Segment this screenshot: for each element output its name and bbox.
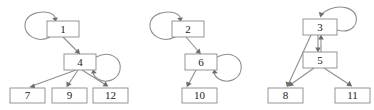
node-n4-label: 4 — [77, 56, 83, 68]
cluster-1: 1 4 7 9 12 — [10, 12, 128, 103]
node-n2-label: 2 — [185, 23, 191, 35]
node-n6[interactable]: 6 — [185, 54, 217, 70]
diagram-canvas: 1 4 7 9 12 — [0, 0, 374, 110]
node-n12-label: 12 — [105, 89, 116, 101]
node-n10[interactable]: 10 — [182, 88, 217, 103]
node-n9[interactable]: 9 — [52, 88, 87, 103]
graph-svg: 1 4 7 9 12 — [0, 0, 374, 110]
node-n1[interactable]: 1 — [47, 21, 79, 37]
arrowhead-n4-n9 — [66, 81, 71, 87]
node-n12[interactable]: 12 — [93, 88, 128, 103]
edge-n1-n4 — [63, 37, 78, 52]
node-n3[interactable]: 3 — [303, 19, 337, 35]
self-loop-edge-n6-n6 — [214, 54, 241, 81]
node-n9-label: 9 — [67, 89, 73, 101]
node-n6-label: 6 — [198, 56, 204, 68]
node-n10-label: 10 — [194, 89, 206, 101]
node-n7[interactable]: 7 — [10, 88, 45, 103]
node-n2[interactable]: 2 — [172, 21, 204, 37]
node-n4[interactable]: 4 — [64, 54, 96, 70]
node-n8[interactable]: 8 — [268, 88, 303, 103]
node-n1-label: 1 — [60, 23, 66, 35]
edge-n2-n6 — [186, 37, 199, 52]
node-n5-label: 5 — [317, 54, 323, 66]
cluster-2: 2 6 10 — [150, 12, 241, 103]
edge-n5-n8 — [290, 68, 314, 85]
self-loop-edge-n4-n4 — [93, 54, 120, 81]
node-n8-label: 8 — [283, 89, 289, 101]
edge-n5-n11 — [324, 68, 350, 85]
node-n11[interactable]: 11 — [335, 88, 370, 103]
cluster-3: 3 5 8 11 — [268, 7, 370, 103]
node-n11-label: 11 — [347, 89, 358, 101]
node-n5[interactable]: 5 — [303, 52, 337, 68]
node-n3-label: 3 — [317, 21, 323, 33]
node-n7-label: 7 — [25, 89, 31, 101]
